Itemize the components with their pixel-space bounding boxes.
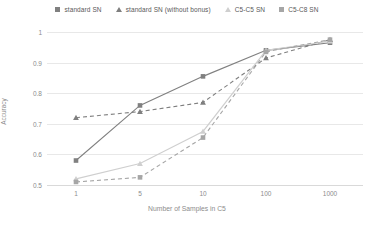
data-point-marker <box>74 158 79 163</box>
data-point-marker <box>138 103 143 108</box>
data-point-marker <box>137 161 143 166</box>
data-point-marker <box>200 99 206 104</box>
data-point-marker <box>328 37 333 42</box>
series-line-3 <box>76 40 330 182</box>
data-point-marker <box>263 55 269 60</box>
data-point-marker <box>264 50 269 55</box>
chart-container: standard SN standard SN (without bonus) … <box>0 0 374 227</box>
series-line-2 <box>76 41 330 179</box>
data-point-marker <box>138 175 143 180</box>
data-point-marker <box>201 74 206 79</box>
data-point-marker <box>74 180 79 185</box>
series-layer <box>0 0 374 227</box>
data-point-marker <box>201 135 206 140</box>
